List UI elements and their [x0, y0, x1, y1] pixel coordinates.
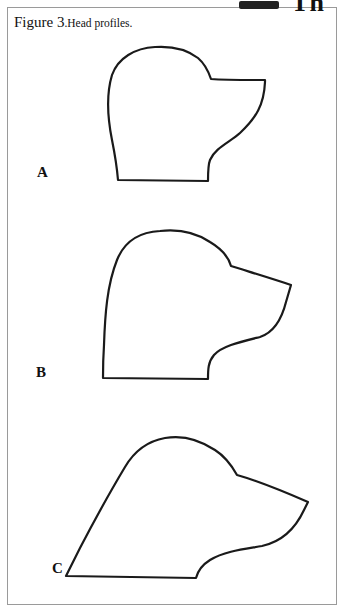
- head-profile-a: [108, 47, 265, 181]
- panel-label-c: C: [52, 560, 63, 577]
- head-profile-c: [66, 437, 308, 578]
- panel-label-a: A: [37, 164, 48, 181]
- head-profile-b: [103, 230, 291, 379]
- panel-label-b: B: [36, 364, 46, 381]
